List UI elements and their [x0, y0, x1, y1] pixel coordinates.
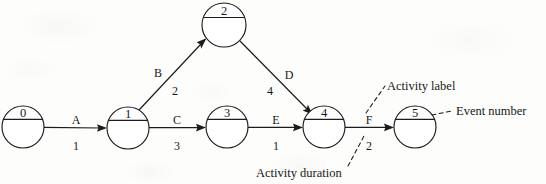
activity-e-label: E — [272, 113, 279, 127]
activity-a-duration: 1 — [73, 139, 79, 153]
event-node-4-number: 4 — [321, 106, 328, 120]
annotation-activity-label: Activity label — [387, 79, 456, 93]
event-node-2[interactable]: 2 — [202, 3, 246, 47]
network-diagram-svg: 0 1 2 3 4 5 A 1 B — [0, 0, 546, 184]
activity-label-leader-line — [366, 86, 385, 113]
activity-e-duration: 1 — [273, 139, 279, 153]
activity-f-duration: 2 — [366, 139, 372, 153]
event-node-3-number: 3 — [224, 106, 230, 120]
activity-d-label: D — [285, 68, 294, 82]
activity-a-arrowhead — [97, 124, 107, 132]
event-node-1[interactable]: 1 — [107, 107, 149, 149]
activity-arrow-b — [139, 38, 207, 110]
event-node-2-number: 2 — [221, 4, 227, 18]
activity-f-label: F — [366, 113, 373, 127]
activity-d-duration: 4 — [267, 84, 273, 98]
activity-f-arrowhead — [384, 124, 394, 132]
annotation-activity-duration: Activity duration — [256, 166, 342, 180]
activity-a-line — [44, 127, 101, 128]
event-node-5[interactable]: 5 — [394, 106, 436, 148]
event-node-5-number: 5 — [412, 106, 418, 120]
event-node-0[interactable]: 0 — [2, 106, 44, 148]
annotation-event-number: Event number — [456, 104, 527, 118]
activity-duration-leader-line — [348, 136, 364, 166]
event-node-0-number: 0 — [20, 106, 26, 120]
activity-c-arrowhead — [196, 124, 206, 132]
event-node-4[interactable]: 4 — [303, 106, 345, 148]
activity-c-label: C — [173, 113, 181, 127]
event-node-3[interactable]: 3 — [206, 106, 248, 148]
activity-b-duration: 2 — [172, 84, 178, 98]
activity-c-duration: 3 — [174, 139, 180, 153]
activity-b-label: B — [154, 66, 162, 80]
activity-d-line — [240, 41, 307, 109]
activity-a-label: A — [72, 113, 81, 127]
event-node-1-number: 1 — [125, 107, 131, 121]
activity-arrow-d — [240, 41, 313, 115]
network-diagram-canvas: 0 1 2 3 4 5 A 1 B — [0, 0, 546, 184]
event-number-leader-line — [432, 111, 452, 115]
activity-b-line — [139, 44, 201, 110]
activity-e-arrowhead — [293, 124, 303, 132]
